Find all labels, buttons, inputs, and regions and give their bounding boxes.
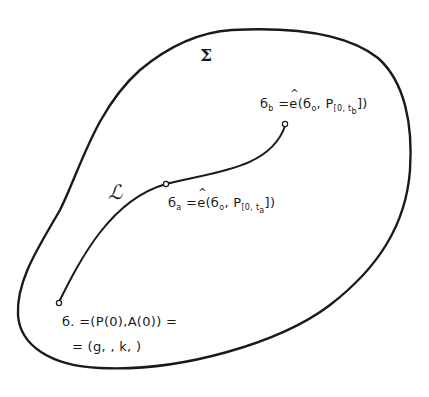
e-hat-function: e	[289, 97, 297, 110]
region-label-sigma: Σ	[200, 45, 212, 65]
point-o-label-line2: = (g, , k, )	[72, 340, 141, 353]
arg-open: (б	[298, 96, 312, 111]
arg-close: ])	[357, 96, 368, 111]
point-b-label: бb =e(бo, P[0, tb])	[260, 97, 368, 116]
arg-path: , P	[317, 96, 334, 111]
equals-sign: =	[186, 195, 197, 210]
arg-path: , P	[224, 195, 241, 210]
point-b-marker	[282, 121, 287, 126]
curve-label-L: ℒ	[108, 180, 122, 204]
path-interval-start: [0, t	[241, 203, 259, 212]
path-interval-start: [0, t	[334, 104, 352, 113]
e-hat-function: e	[197, 196, 205, 209]
point-o-label-line1: б. =(P(0),A(0)) =	[62, 315, 177, 328]
sigma-a-subscript: a	[176, 203, 181, 212]
point-a-label: бa =e(бo, P[0, ta])	[168, 196, 275, 215]
sigma-b-subscript: b	[268, 104, 273, 113]
point-o-marker	[56, 300, 61, 305]
point-a-marker	[163, 181, 168, 186]
arg-close: ])	[265, 195, 276, 210]
equals-sign: =	[278, 96, 289, 111]
arg-open: (б	[205, 195, 219, 210]
